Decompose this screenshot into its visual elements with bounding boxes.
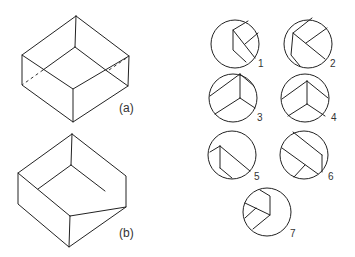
view-5-top-edge bbox=[210, 146, 220, 152]
view-5-number: 5 bbox=[254, 171, 260, 182]
view-2-corner bbox=[291, 18, 312, 66]
box-b-inner-right-edge bbox=[71, 165, 105, 191]
view-1-edge bbox=[245, 33, 258, 44]
view-1-circle bbox=[211, 20, 259, 68]
view-5: 5 bbox=[208, 131, 260, 182]
view-3-lower-right-edge bbox=[240, 98, 255, 108]
view-2-diagonal bbox=[293, 33, 325, 59]
view-4: 4 bbox=[281, 74, 337, 123]
view-2-edge bbox=[306, 28, 327, 43]
view-6-number: 6 bbox=[328, 171, 334, 182]
diagram-svg: (a) (b) 1 2 3 bbox=[0, 0, 355, 257]
view-1: 1 bbox=[211, 20, 264, 69]
view-3-right-edge bbox=[240, 74, 254, 86]
box-a-hidden-right-edge bbox=[109, 57, 128, 70]
box-b-outline bbox=[18, 134, 126, 247]
box-a-label: (a) bbox=[119, 101, 134, 115]
view-2-number: 2 bbox=[330, 58, 336, 69]
box-b-back-vertical-edge bbox=[71, 134, 72, 165]
view-5-circle bbox=[208, 131, 256, 179]
box-b-front-vertical-edge bbox=[69, 216, 70, 247]
box-b-front-top-left-edge bbox=[18, 173, 70, 216]
box-b-front-top-right-edge bbox=[70, 207, 126, 216]
view-7-circle bbox=[243, 188, 291, 236]
box-b-label: (b) bbox=[119, 226, 134, 240]
view-5-diagonal bbox=[220, 146, 250, 171]
box-a-front-top-edges bbox=[22, 55, 129, 89]
view-1-diagonal bbox=[233, 30, 255, 58]
view-7-edge bbox=[245, 208, 256, 218]
diagram-canvas: (a) (b) 1 2 3 bbox=[0, 0, 355, 257]
view-1-number: 1 bbox=[258, 58, 264, 69]
view-3-left-edge bbox=[210, 74, 240, 96]
box-b: (b) bbox=[18, 134, 134, 247]
view-6-circle bbox=[280, 131, 328, 179]
view-3-lower-left-edge bbox=[215, 98, 240, 114]
view-3: 3 bbox=[209, 74, 263, 123]
box-a-hidden-left-edge bbox=[22, 70, 43, 85]
box-a-inner-right-lower bbox=[107, 71, 128, 86]
view-7: 7 bbox=[243, 188, 296, 239]
box-b-inner-left-edge bbox=[38, 165, 71, 189]
view-3-number: 3 bbox=[257, 112, 263, 123]
view-4-lower-left-edge bbox=[288, 104, 307, 116]
box-a-inner-right-edge bbox=[75, 47, 107, 71]
view-6-bottom-edge bbox=[294, 165, 305, 177]
view-4-circle bbox=[281, 74, 329, 122]
box-a-inner-left-edge bbox=[43, 47, 75, 70]
box-a: (a) bbox=[22, 16, 134, 122]
view-6: 6 bbox=[280, 131, 334, 182]
box-a-back-vertical-edge bbox=[75, 16, 76, 47]
view-4-number: 4 bbox=[331, 112, 337, 123]
view-7-diagonal bbox=[245, 203, 270, 215]
view-7-number: 7 bbox=[290, 228, 296, 239]
view-2-circle bbox=[284, 20, 332, 68]
view-4-right-edge bbox=[307, 81, 328, 98]
view-3-circle bbox=[209, 74, 257, 122]
view-2: 2 bbox=[284, 18, 336, 69]
view-4-lower-right-edge bbox=[307, 104, 325, 116]
view-1-corner bbox=[233, 21, 248, 62]
view-7-corner bbox=[253, 190, 270, 229]
